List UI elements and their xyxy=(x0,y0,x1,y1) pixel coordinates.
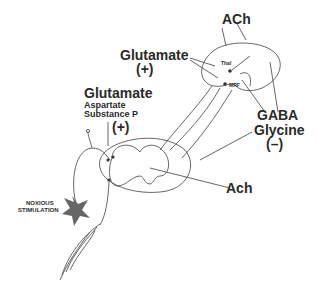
minus-label: (–) xyxy=(266,137,283,151)
glycine-label: Glycine xyxy=(254,123,305,137)
thal-label: Thal xyxy=(221,61,231,66)
ach-spinal-label: Ach xyxy=(226,181,252,195)
glutamate-spinal-label: Glutamate xyxy=(84,86,152,100)
noxious-star-icon xyxy=(62,196,90,226)
stimulation-label: STIMULATION xyxy=(18,207,59,213)
noxious-label: NOXIOUS xyxy=(26,200,54,206)
plus-brainstem-label: (+) xyxy=(136,62,154,76)
ach-top-label: ACh xyxy=(222,12,251,26)
brainstem-outline xyxy=(202,43,281,91)
substance-p-label: Substance P xyxy=(84,110,138,119)
glutamate-brainstem-label: Glutamate xyxy=(120,48,188,62)
mrf-label: MRF xyxy=(229,83,240,88)
plus-spinal-label: (+) xyxy=(112,120,130,134)
gaba-label: GABA xyxy=(257,108,298,122)
